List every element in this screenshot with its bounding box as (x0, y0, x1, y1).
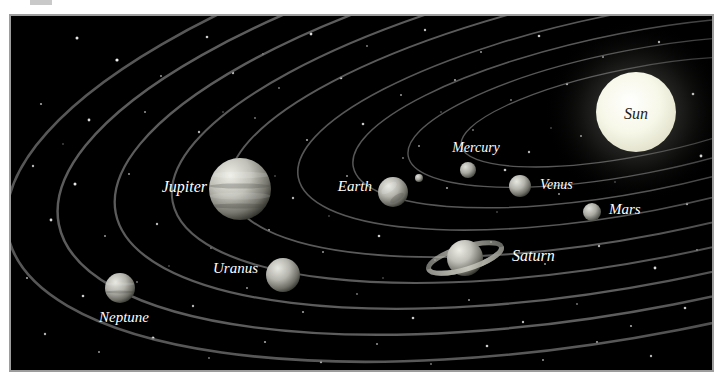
body-moon (415, 174, 423, 182)
uranus-disc (266, 258, 300, 292)
page-artifact-mark (30, 0, 52, 5)
label-saturn: Saturn (512, 247, 555, 264)
label-jupiter: Jupiter (162, 178, 208, 196)
solar-system-canvas: Sun Mercury Venus Earth Mars Jupiter Sat… (11, 16, 712, 370)
body-mercury (460, 162, 476, 178)
label-mercury: Mercury (451, 140, 500, 155)
neptune-disc (105, 273, 135, 303)
body-uranus (266, 258, 300, 292)
mercury-disc (460, 162, 476, 178)
body-jupiter (209, 158, 271, 220)
moon-disc (415, 174, 423, 182)
label-uranus: Uranus (213, 260, 258, 276)
body-earth (378, 177, 408, 207)
body-neptune (105, 273, 135, 303)
mars-disc (583, 203, 601, 221)
solar-system-figure: Sun Mercury Venus Earth Mars Jupiter Sat… (0, 0, 722, 389)
label-neptune: Neptune (98, 309, 149, 325)
label-mars: Mars (608, 201, 641, 217)
label-venus: Venus (540, 177, 573, 192)
body-venus (509, 175, 531, 197)
label-sun: Sun (624, 105, 648, 122)
starfield-panel: Sun Mercury Venus Earth Mars Jupiter Sat… (11, 16, 712, 370)
label-earth: Earth (337, 178, 372, 194)
jupiter-disc (209, 158, 271, 220)
body-mars (583, 203, 601, 221)
venus-disc (509, 175, 531, 197)
